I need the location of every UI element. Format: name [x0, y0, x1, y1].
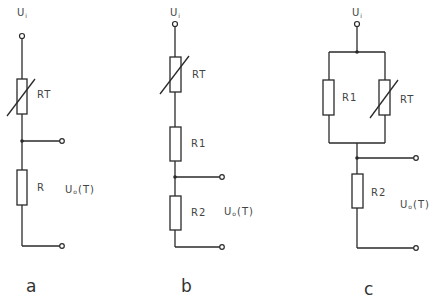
resistor-r2-c — [352, 174, 363, 208]
input-terminal-b — [173, 22, 178, 27]
resistor-r2-b — [170, 196, 181, 230]
component-label: RT — [400, 94, 414, 105]
resistor-r1-c — [323, 80, 334, 115]
circuit-c: Ui R1 RT R2 Uo(T) c — [323, 7, 430, 299]
input-terminal-c — [355, 22, 360, 27]
circuit-a: Ui RT R Uo(T) a — [7, 7, 95, 296]
component-label: R2 — [191, 207, 206, 218]
caption-c: c — [364, 279, 373, 299]
output-terminal-bottom-a — [60, 244, 65, 249]
caption-b: b — [181, 276, 192, 296]
output-terminal-top-a — [60, 139, 65, 144]
input-terminal-a — [20, 34, 25, 39]
circuit-diagram: Ui RT R Uo(T) a Ui RT R1 — [0, 0, 447, 305]
circuit-b: Ui RT R1 R2 Uo(T) b — [160, 7, 254, 296]
output-voltage-label-a: Uo(T) — [65, 184, 95, 195]
output-voltage-label-c: Uo(T) — [400, 199, 430, 210]
output-terminal-top-b — [220, 175, 225, 180]
output-terminal-top-c — [414, 156, 419, 161]
resistor-r1-b — [170, 127, 181, 161]
component-label: R1 — [342, 92, 357, 103]
output-terminal-bottom-b — [220, 245, 225, 250]
component-label: RT — [37, 89, 51, 100]
output-terminal-bottom-c — [414, 246, 419, 251]
component-label: R — [37, 182, 45, 193]
input-voltage-label-b: Ui — [170, 7, 181, 19]
caption-a: a — [26, 276, 36, 296]
component-label: RT — [192, 69, 206, 80]
resistor-r-a — [17, 170, 27, 205]
output-voltage-label-b: Uo(T) — [224, 206, 254, 217]
component-label: R2 — [371, 187, 386, 198]
input-voltage-label-c: Ui — [352, 7, 363, 19]
input-voltage-label-a: Ui — [17, 7, 28, 19]
component-label: R1 — [191, 138, 206, 149]
